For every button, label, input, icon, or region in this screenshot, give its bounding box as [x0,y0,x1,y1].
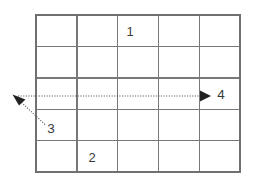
diagram-canvas: 1 2 3 4 [0,0,253,181]
cell-label-1: 1 [126,25,133,38]
arrow-label-3: 3 [47,122,55,136]
arrow-label-4: 4 [217,88,225,102]
cell-label-2: 2 [88,151,95,164]
grid-background [36,15,240,172]
